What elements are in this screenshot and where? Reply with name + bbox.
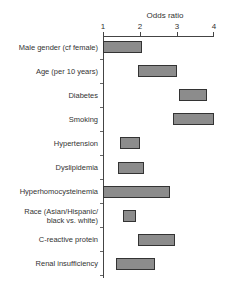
x-tick <box>140 32 141 36</box>
odds-ratio-bar <box>173 113 214 125</box>
y-tick <box>100 59 103 60</box>
category-label-line: Race (Asian/Hispanic/ <box>24 207 98 216</box>
y-tick <box>100 155 103 156</box>
category-label-line: Smoking <box>69 115 98 124</box>
category-label-line: black vs. white) <box>24 216 98 225</box>
odds-ratio-bar <box>123 210 136 222</box>
category-label: Age (per 10 years) <box>36 67 98 76</box>
y-tick <box>100 227 103 228</box>
category-label: Renal insufficiency <box>36 259 98 268</box>
odds-ratio-bar <box>103 41 142 53</box>
category-label: Hyperhomocysteinemia <box>20 187 98 196</box>
odds-ratio-chart: Odds ratio 1 2 3 4 Male gender (cf femal… <box>0 0 225 287</box>
category-label: C-reactive protein <box>39 235 98 244</box>
x-tick-label-4: 4 <box>208 22 220 31</box>
category-label-line: Diabetes <box>68 91 98 100</box>
category-label-line: Hypertension <box>54 139 98 148</box>
odds-ratio-bar <box>103 186 170 198</box>
y-tick <box>100 83 103 84</box>
x-tick <box>177 32 178 36</box>
odds-ratio-bar <box>138 234 175 246</box>
odds-ratio-bar <box>179 89 207 101</box>
x-tick-label-3: 3 <box>171 22 183 31</box>
x-axis-title: Odds ratio <box>130 11 200 20</box>
odds-ratio-bar <box>116 258 155 270</box>
y-tick <box>100 179 103 180</box>
x-tick <box>213 32 214 36</box>
y-tick <box>100 203 103 204</box>
y-tick <box>100 275 103 276</box>
category-label-line: C-reactive protein <box>39 235 98 244</box>
category-label-line: Renal insufficiency <box>36 259 98 268</box>
category-label: Smoking <box>69 115 98 124</box>
category-label-line: Hyperhomocysteinemia <box>20 187 98 196</box>
category-label: Dyslipidemia <box>55 163 98 172</box>
y-tick <box>100 107 103 108</box>
category-label: Male gender (cf female) <box>19 43 98 52</box>
category-label: Race (Asian/Hispanic/black vs. white) <box>24 207 98 225</box>
x-tick-label-2: 2 <box>134 22 146 31</box>
x-tick-label-1: 1 <box>97 22 109 31</box>
category-label-line: Age (per 10 years) <box>36 67 98 76</box>
odds-ratio-bar <box>118 162 144 174</box>
y-tick <box>100 251 103 252</box>
x-axis-line <box>103 36 214 37</box>
category-label: Diabetes <box>68 91 98 100</box>
category-label-line: Male gender (cf female) <box>19 43 98 52</box>
odds-ratio-bar <box>120 137 140 149</box>
y-axis-line <box>103 36 104 278</box>
category-label-line: Dyslipidemia <box>55 163 98 172</box>
y-tick <box>100 131 103 132</box>
odds-ratio-bar <box>138 65 177 77</box>
category-label: Hypertension <box>54 139 98 148</box>
